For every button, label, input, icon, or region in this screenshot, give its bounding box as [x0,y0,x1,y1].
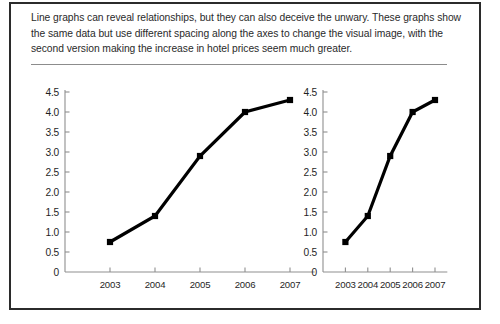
figure-container: Line graphs can reveal relationships, bu… [9,2,481,310]
figure-caption: Line graphs can reveal relationships, bu… [31,10,461,57]
caption-divider [31,64,447,65]
chart-series-left [29,76,277,308]
chart-series-right [289,76,479,308]
charts-row: 00.51.01.52.02.53.03.54.04.5 20032004200… [11,76,479,308]
chart-compressed-spacing: 00.51.01.52.02.53.03.54.04.5 20032004200… [289,76,479,308]
chart-wide-spacing: 00.51.01.52.02.53.03.54.04.5 20032004200… [29,76,277,308]
